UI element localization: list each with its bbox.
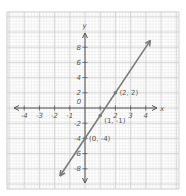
y-tick-label: 4 bbox=[77, 74, 81, 82]
x-axis-label: x bbox=[159, 105, 165, 113]
x-tick-label: -2 bbox=[51, 112, 59, 120]
y-tick-label: -8 bbox=[74, 165, 82, 173]
x-tick-label: -1 bbox=[66, 112, 73, 120]
y-axis-label: y bbox=[82, 22, 88, 30]
coordinate-plane: xy -4-3-2-12340-8-6-4-22468 (2, 2)(1, -1… bbox=[0, 0, 186, 196]
data-point-label: (1, -1) bbox=[104, 117, 126, 125]
x-tick-label: 3 bbox=[128, 112, 132, 120]
data-point-label: (0, -4) bbox=[89, 135, 111, 143]
data-point bbox=[98, 114, 102, 118]
x-tick-label: 4 bbox=[144, 112, 148, 120]
y-tick-label: -2 bbox=[74, 120, 82, 128]
data-point bbox=[83, 137, 87, 141]
y-tick-label: 8 bbox=[77, 44, 82, 52]
data-point bbox=[114, 91, 118, 95]
x-tick-label: -3 bbox=[36, 112, 43, 120]
grid bbox=[7, 12, 179, 189]
data-point-label: (2, 2) bbox=[119, 89, 138, 97]
axes: xy bbox=[14, 22, 165, 183]
origin-label: 0 bbox=[77, 98, 82, 106]
x-tick-label: -4 bbox=[21, 112, 28, 120]
grid-border bbox=[7, 12, 179, 189]
y-tick-label: 2 bbox=[77, 89, 82, 97]
y-tick-label: -4 bbox=[74, 135, 81, 143]
y-tick-label: 6 bbox=[77, 59, 82, 67]
